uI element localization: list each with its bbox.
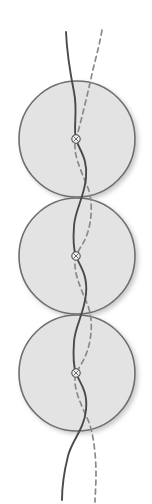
crossing-node-2	[72, 252, 80, 260]
braid-diagram: Braid diagram with three crossing disks …	[0, 0, 152, 504]
braid-svg	[0, 0, 152, 504]
crossing-node-3	[72, 369, 80, 377]
crossing-node-1	[72, 135, 80, 143]
